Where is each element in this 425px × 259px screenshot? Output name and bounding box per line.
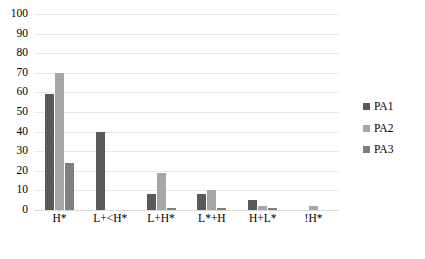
bar-pa3-4	[268, 208, 277, 210]
x-tick-label: !H*	[288, 212, 339, 224]
y-tick-label: 20	[17, 165, 29, 177]
legend-swatch-icon	[363, 103, 370, 110]
bar-pa2-0	[55, 73, 64, 210]
bar-groups	[34, 14, 339, 210]
legend-item-pa2[interactable]: PA2	[363, 123, 393, 135]
y-axis: 0102030405060708090100	[0, 14, 32, 210]
bar-group	[288, 14, 339, 210]
legend-swatch-icon	[363, 146, 370, 153]
plot-area	[34, 14, 339, 210]
y-tick-label: 80	[17, 47, 29, 59]
legend-swatch-icon	[363, 125, 370, 132]
bar-pa1-0	[45, 94, 54, 210]
x-axis: H*L+<H*L+H*L*+HH+L*!H*	[34, 212, 339, 224]
bar-pa1-3	[197, 194, 206, 210]
legend-label: PA3	[374, 144, 393, 156]
bar-pa2-3	[207, 190, 216, 210]
bar-pa2-2	[157, 173, 166, 210]
bar-group	[237, 14, 288, 210]
bar-pa1-1	[96, 132, 105, 210]
bar-chart: 0102030405060708090100 H*L+<H*L+H*L*+HH+…	[0, 0, 425, 259]
bar-pa3-2	[167, 208, 176, 210]
y-tick-label: 60	[17, 87, 29, 99]
y-tick-label: 30	[17, 145, 29, 157]
y-tick-label: 50	[17, 106, 29, 118]
bar-pa3-0	[65, 163, 74, 210]
bar-group	[136, 14, 187, 210]
bar-group	[34, 14, 85, 210]
legend-label: PA1	[374, 101, 393, 113]
bar-pa2-4	[258, 206, 267, 210]
legend-label: PA2	[374, 123, 393, 135]
y-tick-label: 10	[17, 185, 29, 197]
bar-pa1-4	[248, 200, 257, 210]
legend-item-pa1[interactable]: PA1	[363, 101, 393, 113]
bar-pa3-3	[217, 208, 226, 210]
x-tick-label: H*	[34, 212, 85, 224]
legend: PA1PA2PA3	[363, 101, 393, 156]
x-tick-label: L+H*	[136, 212, 187, 224]
bar-group	[186, 14, 237, 210]
y-tick-label: 40	[17, 126, 29, 138]
bar-pa1-2	[147, 194, 156, 210]
y-tick-label: 100	[11, 8, 28, 20]
bar-pa2-5	[309, 206, 318, 210]
bar-group	[85, 14, 136, 210]
y-tick-label: 70	[17, 67, 29, 79]
gridline	[34, 210, 339, 211]
y-tick-label: 0	[22, 204, 28, 216]
legend-item-pa3[interactable]: PA3	[363, 144, 393, 156]
y-tick-label: 90	[17, 28, 29, 40]
x-tick-label: L*+H	[186, 212, 237, 224]
x-tick-label: L+<H*	[85, 212, 136, 224]
x-tick-label: H+L*	[237, 212, 288, 224]
